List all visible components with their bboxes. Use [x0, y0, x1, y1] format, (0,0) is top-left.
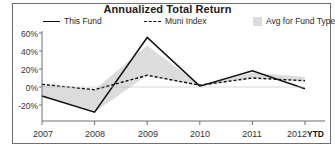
chart-screenshot: Annualized Total Return This Fund Muni I…: [0, 0, 335, 151]
chart-plot-area: [0, 0, 335, 151]
